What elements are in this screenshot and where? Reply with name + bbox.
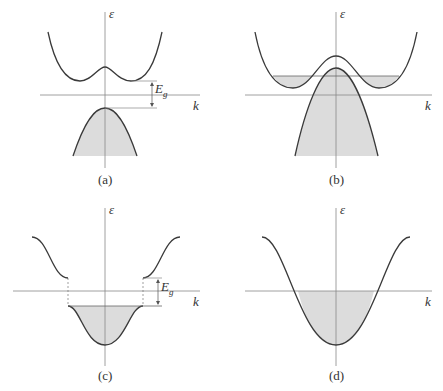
energy-label-b: ε — [340, 7, 345, 20]
upper-band-left-c — [32, 237, 68, 278]
energy-label-a: ε — [109, 7, 114, 20]
k-label-b: k — [425, 99, 431, 112]
k-label-d: k — [425, 295, 431, 308]
caption-d: (d) — [329, 369, 344, 382]
panel-d — [245, 208, 432, 366]
band-diagram-figure — [0, 0, 443, 391]
valence-band-fill-c — [68, 306, 143, 345]
caption-b: (b) — [329, 173, 344, 186]
gap-label-c: Eg — [161, 280, 173, 297]
k-label-a: k — [193, 99, 199, 112]
caption-c: (c) — [98, 369, 112, 382]
caption-a: (a) — [98, 173, 112, 186]
gap-label-a: Eg — [155, 82, 167, 99]
energy-label-d: ε — [340, 203, 345, 216]
energy-label-c: ε — [109, 203, 114, 216]
upper-band-right-c — [143, 237, 180, 278]
panel-b — [245, 12, 432, 168]
k-label-c: k — [193, 295, 199, 308]
panel-a — [40, 12, 200, 168]
